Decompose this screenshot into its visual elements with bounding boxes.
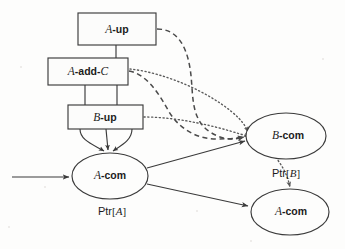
- edge-b-up-to-a-com-3: [113, 129, 132, 151]
- node-a-up[interactable]: A-up: [78, 13, 156, 45]
- edge-a-com-to-b-com: [147, 141, 245, 168]
- edge-a-com-to-a-com-right: [147, 184, 248, 206]
- node-a-com-right[interactable]: A-com: [251, 189, 329, 235]
- node-a-com-left[interactable]: A-com Ptr[A]: [72, 153, 148, 217]
- node-b-com[interactable]: B-com Ptr[B]: [246, 113, 326, 179]
- b-com-label: B-com: [272, 129, 304, 141]
- a-com-left-label: A-com: [93, 169, 126, 181]
- edge-a-up-to-b-com: [157, 29, 244, 139]
- edge-b-up-to-a-com-1: [80, 129, 104, 151]
- a-add-c-label: A-add-C: [67, 65, 109, 77]
- b-up-label: B-up: [93, 110, 116, 122]
- a-com-right-label: A-com: [274, 205, 307, 217]
- diagram-svg: A-up A-add-C B-up A-com Ptr[A] B-com Ptr…: [0, 0, 345, 249]
- node-a-add-c[interactable]: A-add-C: [48, 58, 128, 85]
- a-up-label: A-up: [104, 23, 128, 35]
- ptr-a-label: Ptr[A]: [98, 205, 126, 217]
- diagram-canvas: A-up A-add-C B-up A-com Ptr[A] B-com Ptr…: [0, 0, 345, 249]
- edge-a-add-c-to-b-com-dotted: [130, 69, 248, 132]
- edge-a-add-c-to-b-com-dashed: [129, 71, 244, 139]
- edge-b-up-to-b-com-dotted: [144, 117, 249, 137]
- ptr-b-label: Ptr[B]: [272, 167, 300, 179]
- edge-b-up-to-a-com-2: [106, 129, 108, 150]
- node-b-up[interactable]: B-up: [68, 105, 143, 129]
